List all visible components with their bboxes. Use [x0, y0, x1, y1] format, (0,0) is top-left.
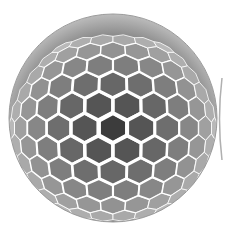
hexagon-sphere-render [0, 0, 225, 251]
sphere-body [9, 14, 217, 222]
neighbor-sphere-edge [216, 78, 225, 160]
